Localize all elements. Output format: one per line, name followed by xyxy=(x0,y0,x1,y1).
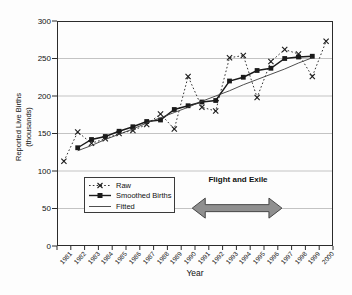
square-marker xyxy=(172,107,177,112)
legend-label-fitted: Fitted xyxy=(116,202,135,211)
y-tick-label: 250 xyxy=(21,54,51,63)
legend-label-smoothed: Smoothed Births xyxy=(116,191,171,200)
x-axis-title: Year xyxy=(57,268,333,278)
square-marker xyxy=(103,134,108,139)
square-marker xyxy=(117,129,122,134)
square-marker xyxy=(282,56,287,61)
legend-entry-fitted: Fitted xyxy=(88,201,174,212)
square-marker xyxy=(296,55,301,60)
square-marker xyxy=(227,79,232,84)
flight-exile-arrow-icon xyxy=(192,198,282,218)
fitted-line-sample-icon xyxy=(88,202,112,211)
legend-entry-raw: Raw xyxy=(88,180,174,191)
annotation-label: Flight and Exile xyxy=(192,175,284,184)
y-tick-label: 200 xyxy=(21,92,51,101)
series-line-smoothed-births xyxy=(78,56,313,148)
square-marker xyxy=(269,66,274,71)
y-tick-label: 150 xyxy=(21,129,51,138)
y-tick-label: 50 xyxy=(21,204,51,213)
square-marker xyxy=(255,68,260,73)
legend-entry-smoothed: Smoothed Births xyxy=(88,191,174,202)
legend-label-raw: Raw xyxy=(116,181,131,190)
smoothed-line-sample-icon xyxy=(88,191,112,200)
legend-box: Raw Smoothed Births Fitted xyxy=(84,177,175,213)
series-line-fitted xyxy=(78,58,313,151)
births-chart-figure: Reported Live Births (thousands) Year Fl… xyxy=(0,0,352,295)
raw-line-sample-icon xyxy=(88,181,112,190)
square-marker xyxy=(89,137,94,142)
square-marker xyxy=(75,145,80,150)
y-tick-label: 100 xyxy=(21,167,51,176)
square-marker xyxy=(213,98,218,103)
y-axis-title: Reported Live Births (thousands) xyxy=(14,93,34,161)
y-axis-title-line1: Reported Live Births xyxy=(14,93,23,161)
y-tick-label: 300 xyxy=(21,17,51,26)
square-marker xyxy=(241,75,246,80)
y-tick-label: 0 xyxy=(21,242,51,251)
y-axis-title-line2: (thousands) xyxy=(24,107,33,147)
